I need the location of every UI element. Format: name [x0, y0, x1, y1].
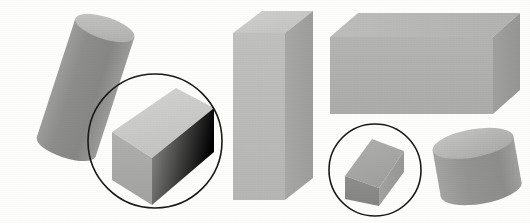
tall-box-side-face — [285, 11, 313, 200]
wide-box-front-face — [330, 37, 493, 114]
tall-box-front-face — [233, 33, 285, 200]
figure-canvas — [0, 0, 530, 223]
shape-tall-box — [233, 11, 313, 200]
shapes-svg — [0, 0, 530, 223]
shape-wide-box — [330, 13, 520, 114]
wide-box-top-face — [330, 13, 520, 37]
